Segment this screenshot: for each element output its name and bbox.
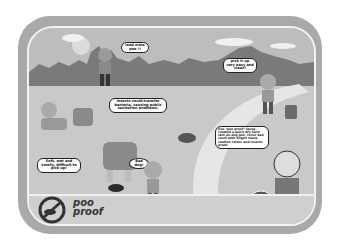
cloud-icon bbox=[214, 36, 254, 48]
cloud-icon bbox=[269, 42, 297, 50]
flies-poo-icon bbox=[175, 126, 199, 146]
no-dog-poo-icon bbox=[37, 196, 67, 224]
trash-bin-icon bbox=[284, 104, 298, 120]
kid-crouching-character bbox=[35, 100, 75, 134]
poster-scene: Ieed mine poo !! Insects could transfer … bbox=[27, 26, 316, 226]
runner-character bbox=[91, 46, 119, 88]
girl-speech-bubble: pick it up very easy and clean! bbox=[223, 58, 257, 73]
insects-speech-bubble: Insects could transfer bacteria, causing… bbox=[109, 98, 167, 113]
logo-strip bbox=[29, 194, 314, 226]
cloud-icon bbox=[61, 32, 85, 42]
logo-line-2: proof bbox=[73, 207, 103, 216]
logo-text: poo proof bbox=[73, 198, 103, 216]
spray-man-speech-bubble: Use "poo proof" Spray - created a quick … bbox=[215, 126, 269, 149]
runner-speech-bubble: Ieed mine poo !! bbox=[121, 42, 149, 53]
small-dog-character bbox=[71, 104, 95, 128]
girl-character bbox=[253, 72, 283, 118]
dog-poo-icon bbox=[107, 182, 125, 192]
kid-speech-bubble: Soft, wet and smelly, difficult to pick … bbox=[37, 158, 81, 173]
